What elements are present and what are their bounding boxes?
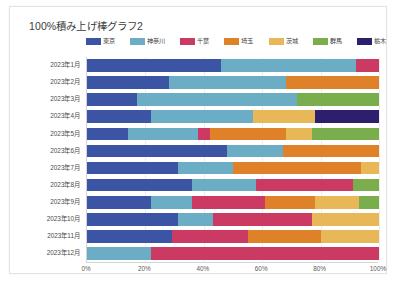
bar-segment-神奈川[interactable] — [178, 162, 233, 175]
chart-title: 100%積み上げ棒グラフ2 — [29, 18, 143, 33]
bar-segment-神奈川[interactable] — [221, 59, 355, 72]
bar-segment-茨城[interactable] — [253, 110, 314, 123]
legend-item-label: 東京 — [103, 38, 115, 44]
bar-segment-神奈川[interactable] — [87, 247, 151, 260]
bar-segment-東京[interactable] — [87, 179, 192, 192]
y-axis-tick-label: 2023年6月 — [26, 145, 84, 158]
bar-segment-神奈川[interactable] — [151, 110, 253, 123]
bar-segment-群馬[interactable] — [353, 179, 379, 192]
y-axis-tick-label: 2023年2月 — [26, 76, 84, 89]
legend-item-label: 埼玉 — [241, 38, 253, 44]
bar-segment-東京[interactable] — [87, 93, 137, 106]
legend-swatch-icon — [313, 38, 328, 45]
bar-row[interactable] — [87, 59, 379, 72]
bar-segment-茨城[interactable] — [286, 128, 312, 141]
bar-segment-茨城[interactable] — [312, 213, 379, 226]
bar-series-container — [87, 57, 379, 262]
x-axis-tick-label: 100% — [370, 265, 386, 272]
bar-segment-群馬[interactable] — [312, 128, 379, 141]
bar-segment-東京[interactable] — [87, 196, 151, 209]
x-axis-tick-label: 20% — [138, 265, 151, 272]
bar-segment-東京[interactable] — [87, 145, 227, 158]
legend-item-東京[interactable]: 東京 — [86, 38, 115, 45]
bar-row[interactable] — [87, 247, 379, 260]
y-axis-tick-label: 2023年1月 — [26, 59, 84, 72]
bar-segment-東京[interactable] — [87, 162, 178, 175]
x-axis-labels: 0%20%40%60%80%100% — [86, 265, 378, 277]
bar-row[interactable] — [87, 145, 379, 158]
chart-card: 100%積み上げ棒グラフ2 東京神奈川千葉埼玉茨城群馬栃木 2023年1月202… — [9, 6, 387, 274]
legend-swatch-icon — [86, 38, 101, 45]
legend-item-label: 茨城 — [286, 38, 298, 44]
legend-item-label: 神奈川 — [147, 38, 165, 44]
bar-segment-栃木[interactable] — [315, 110, 379, 123]
bar-row[interactable] — [87, 196, 379, 209]
bar-row[interactable] — [87, 230, 379, 243]
bar-segment-茨城[interactable] — [315, 196, 359, 209]
legend-item-label: 千葉 — [197, 38, 209, 44]
y-axis-tick-label: 2023年3月 — [26, 93, 84, 106]
y-axis-tick-label: 2023年9月 — [26, 196, 84, 209]
bar-segment-埼玉[interactable] — [283, 145, 379, 158]
bar-segment-神奈川[interactable] — [137, 93, 298, 106]
bar-segment-茨城[interactable] — [321, 230, 379, 243]
legend-item-label: 群馬 — [330, 38, 342, 44]
bar-segment-東京[interactable] — [87, 230, 172, 243]
bar-segment-東京[interactable] — [87, 76, 169, 89]
legend-swatch-icon — [180, 38, 195, 45]
bar-segment-神奈川[interactable] — [192, 179, 256, 192]
bar-segment-千葉[interactable] — [213, 213, 312, 226]
bar-segment-埼玉[interactable] — [286, 76, 379, 89]
bar-row[interactable] — [87, 128, 379, 141]
legend-item-栃木[interactable]: 栃木 — [357, 38, 386, 45]
bar-segment-神奈川[interactable] — [178, 213, 213, 226]
bar-segment-千葉[interactable] — [192, 196, 265, 209]
bar-segment-東京[interactable] — [87, 128, 128, 141]
bar-row[interactable] — [87, 110, 379, 123]
bar-segment-埼玉[interactable] — [265, 196, 315, 209]
legend-item-埼玉[interactable]: 埼玉 — [224, 38, 253, 45]
bar-segment-神奈川[interactable] — [227, 145, 282, 158]
legend-item-群馬[interactable]: 群馬 — [313, 38, 342, 45]
bar-segment-神奈川[interactable] — [128, 128, 198, 141]
bar-row[interactable] — [87, 76, 379, 89]
bar-segment-神奈川[interactable] — [169, 76, 286, 89]
bar-segment-千葉[interactable] — [172, 230, 248, 243]
legend-item-神奈川[interactable]: 神奈川 — [130, 38, 165, 45]
y-axis-tick-label: 2023年10月 — [26, 213, 84, 226]
bar-segment-埼玉[interactable] — [233, 162, 361, 175]
legend-item-千葉[interactable]: 千葉 — [180, 38, 209, 45]
y-axis-tick-label: 2023年12月 — [26, 247, 84, 260]
plot-area — [86, 57, 379, 262]
legend-swatch-icon — [224, 38, 239, 45]
bar-segment-千葉[interactable] — [356, 59, 379, 72]
bar-segment-千葉[interactable] — [198, 128, 210, 141]
bar-row[interactable] — [87, 179, 379, 192]
legend-swatch-icon — [269, 38, 284, 45]
y-axis-tick-label: 2023年5月 — [26, 128, 84, 141]
bar-segment-東京[interactable] — [87, 59, 221, 72]
y-axis-tick-label: 2023年7月 — [26, 162, 84, 175]
chart-legend: 東京神奈川千葉埼玉茨城群馬栃木 — [86, 35, 386, 47]
legend-swatch-icon — [130, 38, 145, 45]
bar-segment-埼玉[interactable] — [248, 230, 321, 243]
bar-row[interactable] — [87, 93, 379, 106]
y-axis-labels: 2023年1月2023年2月2023年3月2023年4月2023年5月2023年… — [26, 57, 84, 262]
bar-segment-群馬[interactable] — [359, 196, 379, 209]
x-axis-line — [86, 262, 378, 263]
bar-segment-千葉[interactable] — [151, 247, 379, 260]
legend-item-茨城[interactable]: 茨城 — [269, 38, 298, 45]
gridline — [379, 57, 380, 262]
x-axis-tick-label: 80% — [313, 265, 326, 272]
bar-segment-千葉[interactable] — [256, 179, 352, 192]
legend-item-label: 栃木 — [374, 38, 386, 44]
bar-segment-茨城[interactable] — [361, 162, 379, 175]
y-axis-tick-label: 2023年11月 — [26, 230, 84, 243]
bar-segment-埼玉[interactable] — [210, 128, 286, 141]
bar-segment-東京[interactable] — [87, 213, 178, 226]
bar-segment-神奈川[interactable] — [151, 196, 192, 209]
bar-segment-東京[interactable] — [87, 110, 151, 123]
bar-segment-群馬[interactable] — [297, 93, 379, 106]
bar-row[interactable] — [87, 213, 379, 226]
bar-row[interactable] — [87, 162, 379, 175]
